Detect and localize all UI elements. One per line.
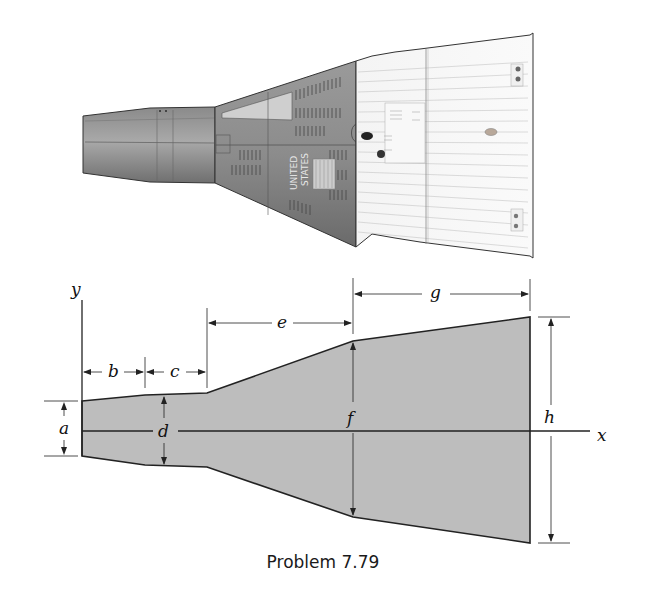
capsule-marking-states: STATES (300, 153, 310, 186)
figure: UNITED STATES (0, 0, 648, 594)
dimension-label-g: g (430, 282, 441, 302)
cross-section-diagram: y x a b c (44, 278, 607, 543)
dimension-label-b: b (108, 361, 119, 381)
dimension-label-h: h (544, 407, 555, 427)
dimension-label-e: e (277, 312, 287, 332)
y-axis-label: y (70, 279, 81, 299)
capsule-illustration: UNITED STATES (83, 33, 533, 258)
x-axis-label: x (597, 425, 607, 445)
dimension-h (538, 317, 570, 543)
dimension-label-c: c (170, 361, 180, 381)
capsule-profile-shape (82, 317, 530, 543)
dimension-label-d: d (158, 421, 169, 441)
dimension-g (354, 279, 530, 311)
capsule-marking-united: UNITED (289, 156, 299, 190)
figure-caption: Problem 7.79 (267, 552, 380, 572)
dimension-label-a: a (59, 418, 69, 438)
